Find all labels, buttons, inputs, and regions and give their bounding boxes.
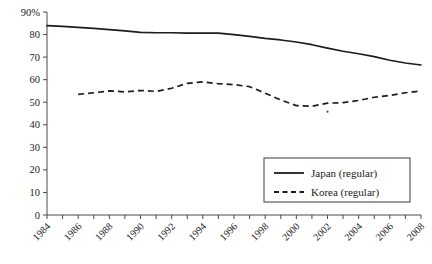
y-tick-label: 40 (30, 119, 41, 130)
x-tick-label: 1990 (124, 221, 146, 243)
x-tick-label: 1996 (217, 221, 239, 243)
x-tick-label: 1994 (186, 221, 208, 243)
y-tick-label: 60 (30, 74, 41, 85)
x-tick-label: 1998 (249, 221, 271, 243)
y-tick-label: 30 (30, 142, 41, 153)
y-tick-label: 70 (30, 52, 41, 63)
y-tick-label: 20 (30, 164, 41, 175)
stray-marker-icon (326, 111, 328, 113)
series-line-japan (47, 26, 421, 65)
y-tick-label: 0 (35, 210, 40, 221)
chart-container: 0102030405060708090%19841986198819901992… (0, 0, 432, 264)
y-tick-label: 10 (30, 187, 41, 198)
legend-label-korea: Korea (regular) (311, 186, 379, 199)
x-tick-label: 2006 (373, 221, 395, 243)
x-tick-label: 2000 (280, 221, 302, 243)
x-tick-label-group: 1998 (249, 221, 271, 243)
line-chart: 0102030405060708090%19841986198819901992… (0, 0, 432, 264)
x-tick-label: 1988 (93, 221, 115, 243)
y-tick-label: 80 (30, 29, 41, 40)
x-tick-label-group: 2004 (342, 221, 364, 243)
x-tick-label-group: 1992 (155, 221, 177, 243)
x-tick-label-group: 2002 (311, 221, 333, 243)
x-tick-label: 1986 (62, 221, 84, 243)
x-tick-label-group: 1996 (217, 221, 239, 243)
legend: Japan (regular)Korea (regular) (264, 158, 410, 202)
x-tick-label: 1984 (30, 221, 52, 243)
legend-label-japan: Japan (regular) (311, 167, 378, 180)
y-tick-label: 90% (21, 7, 41, 18)
x-tick-label: 1992 (155, 221, 177, 243)
x-tick-label-group: 1984 (30, 221, 52, 243)
x-tick-label-group: 1994 (186, 221, 208, 243)
x-tick-label: 2002 (311, 221, 333, 243)
x-tick-label: 2008 (404, 221, 426, 243)
x-tick-label-group: 1988 (93, 221, 115, 243)
x-tick-label-group: 2008 (404, 221, 426, 243)
x-tick-label-group: 2006 (373, 221, 395, 243)
x-tick-label-group: 1990 (124, 221, 146, 243)
x-tick-label-group: 1986 (62, 221, 84, 243)
x-tick-label: 2004 (342, 221, 364, 243)
x-tick-label-group: 2000 (280, 221, 302, 243)
series-line-korea (78, 82, 421, 106)
y-tick-label: 50 (30, 97, 41, 108)
